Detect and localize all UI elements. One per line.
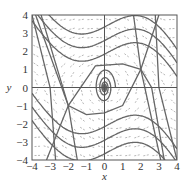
y-tick-label: 3 (23, 27, 29, 39)
x-tick-label: −3 (44, 160, 56, 172)
y-tick-label: −3 (16, 136, 28, 148)
y-tick-label: 4 (23, 9, 29, 21)
x-tick-label: 4 (174, 160, 180, 172)
x-tick-label: −1 (81, 160, 93, 172)
x-tick-label: 3 (156, 160, 162, 172)
y-tick-labels: 43210−1−2−3−4 (16, 9, 28, 166)
x-tick-label: −2 (62, 160, 74, 172)
y-tick-label: −1 (16, 100, 28, 112)
y-tick-label: −4 (16, 154, 28, 166)
x-tick-label: 1 (120, 160, 126, 172)
y-tick-label: 0 (23, 82, 29, 94)
y-tick-label: −2 (16, 118, 28, 130)
x-tick-label: 2 (138, 160, 144, 172)
y-tick-label: 1 (23, 63, 29, 75)
y-axis-label: y (6, 81, 12, 93)
x-axis-label: x (101, 170, 107, 182)
y-tick-label: 2 (23, 45, 29, 57)
phase-portrait: −4−3−2−101234 43210−1−2−3−4 x y (0, 0, 190, 184)
